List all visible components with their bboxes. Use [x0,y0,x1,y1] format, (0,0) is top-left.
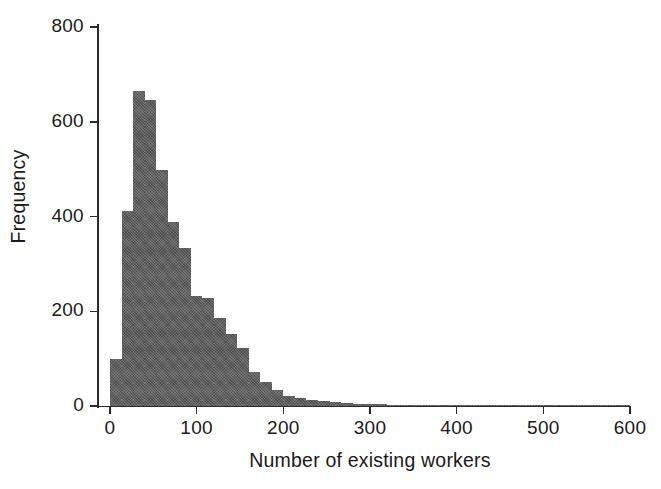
histogram-bar [272,390,284,406]
y-axis-tick [90,121,97,123]
histogram-figure: 0200400600800 0100200300400500600 Number… [0,0,661,489]
x-axis-line [97,406,631,408]
y-axis-title: Frequency [7,117,30,277]
x-axis-tick-label: 200 [253,417,313,439]
x-axis-tick [369,406,371,414]
x-axis-tick-label: 0 [80,417,140,439]
plot-area [110,27,630,406]
histogram-bar [226,334,238,406]
histogram-bar [168,222,180,406]
histogram-bar [122,211,134,406]
x-axis-tick-label: 100 [167,417,227,439]
y-axis-line [97,24,99,408]
histogram-bar [260,382,272,406]
y-axis-tick-label: 0 [0,394,84,416]
histogram-bar [156,170,168,406]
x-axis-tick-label: 300 [340,417,400,439]
x-axis-tick [283,406,285,414]
x-axis-tick [109,406,111,414]
x-axis-title: Number of existing workers [110,449,630,472]
x-axis-tick-label: 400 [427,417,487,439]
histogram-bar [202,298,214,406]
x-axis-tick [456,406,458,414]
histogram-bar [191,296,203,406]
y-axis-tick [90,311,97,313]
y-axis-tick [90,216,97,218]
histogram-bar [214,318,226,406]
histogram-bar [133,91,145,406]
histogram-bar [145,100,157,406]
y-axis-tick-label: 800 [0,15,84,37]
x-axis-tick-label: 600 [600,417,660,439]
histogram-bar [179,248,191,406]
x-axis-tick-label: 500 [513,417,573,439]
y-axis-tick [90,405,97,407]
x-axis-tick [629,406,631,414]
histogram-bar [237,348,249,406]
histogram-bar [110,359,122,406]
histogram-bar [283,396,295,406]
histogram-bar [249,372,261,406]
bar-series [110,27,630,406]
x-axis-tick [196,406,198,414]
y-axis-tick-label: 200 [0,299,84,321]
x-axis-tick [543,406,545,414]
y-axis-tick [90,26,97,28]
